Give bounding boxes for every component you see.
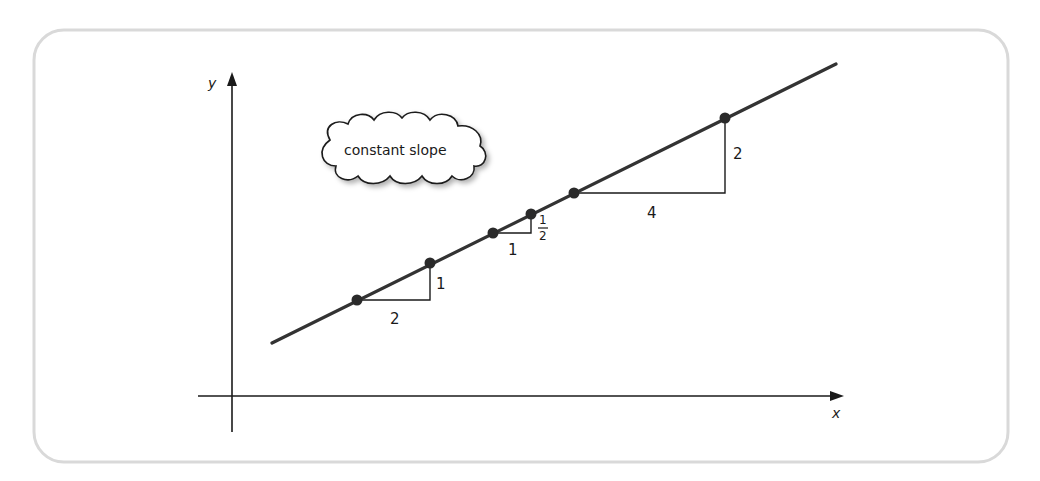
triangle-2-rise-numerator: 1: [539, 213, 547, 227]
triangle-1-run-label: 2: [390, 310, 400, 328]
figure-frame: [34, 30, 1008, 462]
point: [425, 258, 436, 269]
point: [569, 188, 580, 199]
point: [488, 228, 499, 239]
point: [352, 295, 363, 306]
triangle-3-rise-label: 2: [733, 145, 743, 163]
y-axis-arrow-icon: [227, 72, 237, 86]
x-axis-arrow-icon: [830, 391, 844, 401]
point: [720, 113, 731, 124]
triangle-2-run-label: 1: [508, 241, 518, 259]
x-axis: [198, 391, 844, 401]
triangle-3-run-label: 4: [647, 204, 657, 222]
slope-diagram: y x 2 1 1 1 2 4 2 constant slope: [0, 0, 1040, 481]
y-axis: [227, 72, 237, 432]
callout-text: constant slope: [344, 142, 447, 158]
triangle-2-rise-denominator: 2: [539, 229, 547, 243]
y-axis-label: y: [207, 75, 217, 91]
x-axis-label: x: [831, 405, 841, 421]
point: [526, 209, 537, 220]
triangle-1-rise-label: 1: [436, 275, 446, 293]
